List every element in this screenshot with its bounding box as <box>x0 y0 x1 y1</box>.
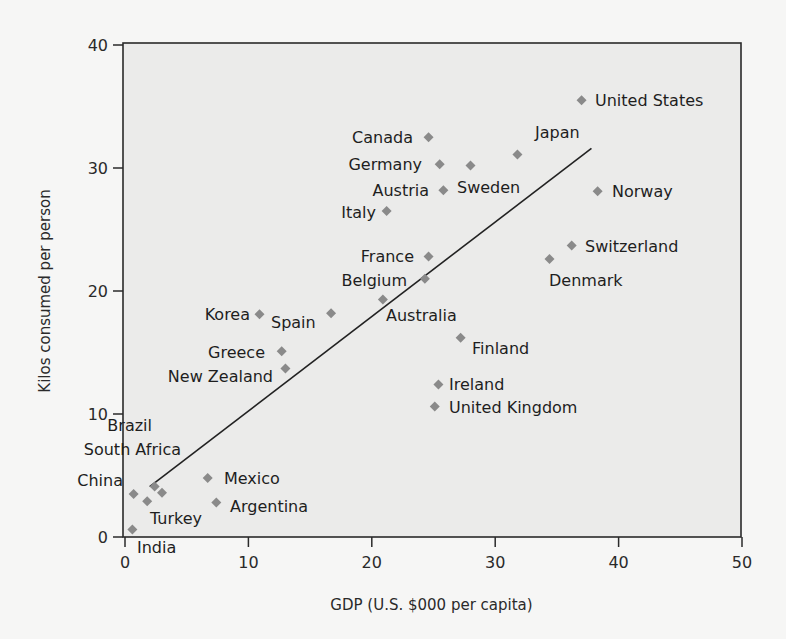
point-label: Turkey <box>149 509 202 528</box>
point-label: Korea <box>205 305 250 324</box>
x-tick-label: 10 <box>238 553 258 572</box>
point-label: Japan <box>534 123 580 142</box>
point-label: United States <box>595 91 703 110</box>
point-label: Norway <box>612 182 673 201</box>
y-tick-label: 20 <box>88 282 108 301</box>
y-tick-label: 30 <box>88 159 108 178</box>
point-label: Belgium <box>341 271 407 290</box>
x-tick-label: 20 <box>362 553 382 572</box>
point-label: Spain <box>271 313 316 332</box>
scatter-chart: 01020304050010203040 United StatesJapanC… <box>0 0 786 639</box>
point-label: New Zealand <box>168 367 273 386</box>
point-label: Australia <box>386 306 457 325</box>
y-axis-title: Kilos consumed per person <box>36 189 54 392</box>
y-tick-label: 40 <box>88 36 108 55</box>
point-label: Brazil <box>107 416 152 435</box>
data-point: United States <box>577 91 704 110</box>
data-point: United Kingdom <box>430 398 578 417</box>
x-axis-title: GDP (U.S. $000 per capita) <box>330 596 532 614</box>
point-label: Mexico <box>224 469 280 488</box>
x-tick-label: 30 <box>485 553 505 572</box>
data-point: New Zealand <box>168 363 291 386</box>
point-label: India <box>137 538 176 557</box>
x-tick-label: 40 <box>608 553 628 572</box>
x-tick-label: 0 <box>120 553 130 572</box>
point-label: Finland <box>472 339 529 358</box>
plot-area <box>123 43 741 537</box>
point-label: Italy <box>341 203 376 222</box>
point-label: United Kingdom <box>449 398 577 417</box>
y-tick-label: 0 <box>98 528 108 547</box>
point-label: China <box>77 471 123 490</box>
point-label: Denmark <box>549 271 623 290</box>
x-tick-label: 50 <box>732 553 752 572</box>
y-tick-label: 10 <box>88 405 108 424</box>
point-label: South Africa <box>84 440 181 459</box>
point-label: Argentina <box>230 497 308 516</box>
point-label: Austria <box>372 181 429 200</box>
point-label: Canada <box>352 128 413 147</box>
point-label: Ireland <box>449 375 504 394</box>
point-label: Sweden <box>457 178 520 197</box>
point-label: Germany <box>348 155 422 174</box>
point-label: Switzerland <box>585 237 678 256</box>
chart-canvas: 01020304050010203040 United StatesJapanC… <box>0 0 786 639</box>
point-label: France <box>361 247 414 266</box>
point-label: Greece <box>208 343 265 362</box>
